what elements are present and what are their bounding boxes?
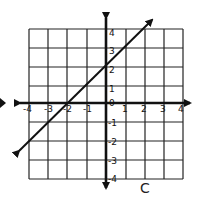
svg-text:-2: -2 xyxy=(63,104,72,114)
svg-text:-4: -4 xyxy=(108,174,117,184)
svg-text:-3: -3 xyxy=(44,104,53,114)
svg-text:-3: -3 xyxy=(108,156,117,166)
x-axis-labels: -4 -3 -2 -1 1 2 3 4 xyxy=(23,104,184,114)
svg-text:3: 3 xyxy=(109,46,115,56)
svg-text:1: 1 xyxy=(109,84,115,94)
svg-text:0: 0 xyxy=(109,98,115,108)
coordinate-plane: -4 -3 -2 -1 1 2 3 4 4 3 2 1 0 -1 -2 -3 -… xyxy=(0,0,201,206)
y-axis-labels: 4 3 2 1 0 -1 -2 -3 -4 xyxy=(108,28,117,184)
caption: C xyxy=(140,180,150,196)
svg-text:-1: -1 xyxy=(108,118,117,128)
svg-text:-1: -1 xyxy=(83,104,92,114)
left-arrow-fragment xyxy=(0,98,6,108)
svg-text:4: 4 xyxy=(178,104,184,114)
svg-text:2: 2 xyxy=(109,65,115,75)
svg-text:2: 2 xyxy=(141,104,147,114)
svg-text:1: 1 xyxy=(122,104,128,114)
svg-text:3: 3 xyxy=(160,104,166,114)
svg-text:-4: -4 xyxy=(23,104,32,114)
svg-text:-2: -2 xyxy=(108,137,117,147)
svg-text:4: 4 xyxy=(109,28,115,38)
